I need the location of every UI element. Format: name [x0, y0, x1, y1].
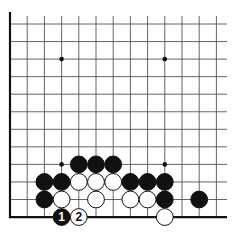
white-stone	[88, 174, 105, 191]
black-stone	[53, 174, 70, 191]
black-stone	[70, 156, 87, 173]
white-stone	[105, 174, 122, 191]
black-stone	[191, 191, 208, 208]
black-stone	[156, 174, 173, 191]
star-point-icon	[59, 57, 64, 62]
star-point-icon	[59, 162, 64, 167]
white-stone-move-2: 2	[70, 209, 87, 226]
white-stone	[122, 191, 139, 208]
white-stone	[156, 209, 173, 226]
black-stone	[88, 156, 105, 173]
star-point-icon	[163, 162, 168, 167]
black-stone	[36, 174, 53, 191]
black-stone-move-1: 1	[53, 209, 70, 226]
black-stone	[122, 174, 139, 191]
white-stone	[70, 174, 87, 191]
black-stone	[36, 191, 53, 208]
white-stone	[53, 191, 70, 208]
move-number-label: 2	[75, 210, 82, 224]
white-stone	[139, 191, 156, 208]
go-board: 12	[0, 0, 233, 237]
white-stone	[88, 191, 105, 208]
black-stone	[139, 174, 156, 191]
move-number-label: 1	[58, 210, 65, 224]
black-stone	[156, 191, 173, 208]
black-stone	[105, 156, 122, 173]
star-point-icon	[163, 57, 168, 62]
